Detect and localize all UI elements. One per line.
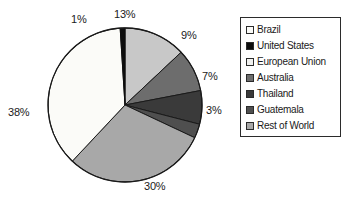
legend-swatch-rest-of-world [246, 122, 254, 130]
legend-swatch-australia [246, 74, 254, 82]
legend-item-brazil: Brazil [246, 22, 340, 38]
legend-label-thailand: Thailand [257, 89, 293, 99]
pie-label-thailand: 7% [202, 70, 218, 82]
legend-swatch-guatemala [246, 106, 254, 114]
legend-label-guatemala: Guatemala [257, 105, 304, 115]
legend-item-rest-of-world: Rest of World [246, 118, 340, 134]
chart-legend: Brazil United States European Union Aust… [240, 17, 341, 137]
pie-chart-figure: 1% 13% 9% 7% 3% 30% 38% Brazil United St… [0, 0, 359, 205]
legend-item-united-states: United States [246, 38, 340, 54]
legend-item-guatemala: Guatemala [246, 102, 340, 118]
legend-label-australia: Australia [257, 73, 294, 83]
pie-label-guatemala: 3% [206, 104, 222, 116]
legend-item-european-union: European Union [246, 54, 340, 70]
legend-label-european-union: European Union [257, 57, 326, 67]
pie-label-australia: 9% [181, 29, 197, 41]
legend-item-australia: Australia [246, 70, 340, 86]
pie-label-united-states: 1% [71, 13, 87, 25]
legend-swatch-european-union [246, 58, 254, 66]
legend-label-brazil: Brazil [257, 25, 281, 35]
legend-label-rest-of-world: Rest of World [257, 121, 314, 131]
legend-swatch-thailand [246, 90, 254, 98]
pie-label-rest-of-world: 13% [114, 8, 135, 20]
pie-plot-area: 1% 13% 9% 7% 3% 30% 38% [0, 0, 232, 205]
legend-swatch-united-states [246, 42, 254, 50]
legend-item-thailand: Thailand [246, 86, 340, 102]
pie-label-european-union: 30% [144, 180, 165, 192]
pie-label-brazil: 38% [8, 106, 29, 118]
pie-svg [0, 0, 232, 205]
legend-label-united-states: United States [257, 41, 314, 51]
legend-swatch-brazil [246, 26, 254, 34]
